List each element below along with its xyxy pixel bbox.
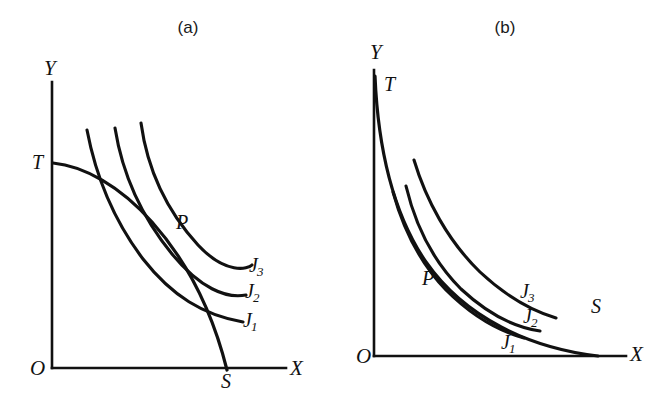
panel-b-origin-label: O xyxy=(356,346,371,367)
panel-b-curve-label-j1: J1 xyxy=(501,332,515,355)
panel-b-point-p-label: P xyxy=(422,268,434,288)
panel-b-curve-label-j1-sub: 1 xyxy=(509,341,516,356)
panel-b-point-t-label: T xyxy=(384,74,395,94)
panel-b: (b) Y X O T S P J3 J2 J1 xyxy=(334,0,667,394)
figure-canvas: (a) Y X O T S P J3 J2 J1 (b) xyxy=(0,0,667,394)
panel-b-curve-label-j2-sub: 2 xyxy=(531,315,538,330)
panel-b-y-axis-label: Y xyxy=(370,42,382,63)
panel-a-curve-label-j1: J1 xyxy=(243,310,257,333)
panel-a-curve-label-j3-sub: 3 xyxy=(257,264,264,279)
panel-b-indifference-curve-j3 xyxy=(414,160,556,318)
panel-b-point-s-label: S xyxy=(591,296,601,316)
panel-a-origin-label: O xyxy=(30,358,45,379)
panel-a-curve-label-j1-sub: 1 xyxy=(251,319,258,334)
panel-a-point-t-label: T xyxy=(32,152,43,172)
panel-a-point-p-label: P xyxy=(176,212,188,232)
panel-a-indifference-curve-j3 xyxy=(141,123,252,268)
panel-b-x-axis-label: X xyxy=(630,344,643,365)
panel-a-point-s-label: S xyxy=(221,371,231,391)
panel-a-y-axis-label: Y xyxy=(44,58,56,79)
panel-b-curve-label-j3: J3 xyxy=(520,281,534,304)
panel-a-x-axis-label: X xyxy=(290,358,303,379)
panel-b-curve-label-j3-sub: 3 xyxy=(528,290,535,305)
panel-a: (a) Y X O T S P J3 J2 J1 xyxy=(0,0,334,394)
panel-b-curve-label-j2: J2 xyxy=(523,306,537,329)
panel-a-curve-label-j2: J2 xyxy=(245,281,259,304)
panel-a-curve-label-j3: J3 xyxy=(249,255,263,278)
panel-b-transformation-curve-ts xyxy=(375,76,598,356)
panel-a-curve-label-j2-sub: 2 xyxy=(253,290,260,305)
panel-a-transformation-curve-ts xyxy=(53,163,227,370)
